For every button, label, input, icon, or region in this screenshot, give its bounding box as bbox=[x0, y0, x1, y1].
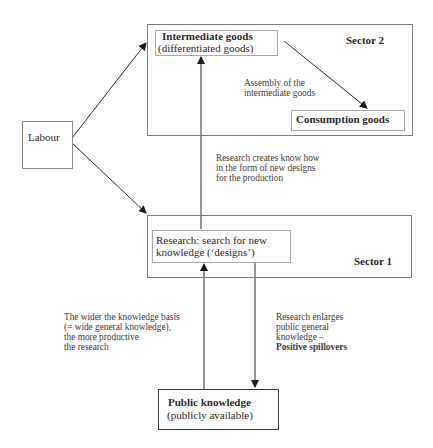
enlarges-line3: knowledge – bbox=[276, 332, 324, 342]
sector2-label: Sector 2 bbox=[346, 34, 384, 46]
research-creates-line3: for the production bbox=[216, 173, 283, 183]
consumption-goods-title: Consumption goods bbox=[296, 113, 389, 125]
labour-box bbox=[22, 121, 73, 169]
enlarges-line1: Research enlarges bbox=[276, 312, 343, 322]
research-creates-line1: Research creates know how bbox=[216, 153, 320, 163]
intermediate-goods-subtitle: (differentiated goods) bbox=[158, 42, 253, 54]
research-line1: Research: search for new bbox=[156, 234, 267, 246]
labour-label: Labour bbox=[28, 131, 60, 143]
arrow-labour-to-sector2 bbox=[72, 43, 146, 138]
wider-basis-line3: the more productive bbox=[64, 332, 139, 342]
arrow-labour-to-sector1 bbox=[72, 143, 146, 213]
enlarges-line2: public general bbox=[276, 322, 329, 332]
positive-spillovers-label: Positive spillovers bbox=[276, 342, 347, 352]
assembly-note-line1: Assembly of the bbox=[244, 78, 305, 88]
research-creates-line2: in the form of new designs bbox=[216, 163, 315, 173]
sector1-label: Sector 1 bbox=[354, 255, 392, 267]
assembly-note-line2: intermediate goods bbox=[244, 88, 315, 98]
public-knowledge-subtitle: (publicly available) bbox=[167, 409, 253, 421]
public-knowledge-title: Public knowledge bbox=[168, 396, 251, 408]
research-line2: knowledge (‘designs’) bbox=[156, 246, 255, 258]
wider-basis-line4: the research bbox=[64, 342, 109, 352]
wider-basis-line2: (= wide general knowledge), bbox=[64, 322, 171, 332]
wider-basis-line1: The wider the knowledge basis bbox=[64, 312, 180, 322]
intermediate-goods-title: Intermediate goods bbox=[162, 30, 253, 42]
